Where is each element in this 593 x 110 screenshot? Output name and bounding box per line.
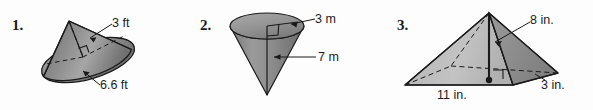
problem-3: 3. <box>385 0 593 110</box>
label-radius-3m: 3 m <box>315 12 336 26</box>
cone-inverted-diagram <box>190 0 385 110</box>
cone-tilted-diagram <box>0 0 197 110</box>
problem-1: 1. <box>0 0 197 110</box>
label-base-depth-3in: 3 in. <box>541 78 565 92</box>
label-height-8in: 8 in. <box>530 13 554 27</box>
label-radius-3ft: 3 ft <box>112 16 129 30</box>
altitude-foot-point <box>486 77 492 83</box>
leader-height <box>274 54 316 60</box>
label-base-width-11in: 11 in. <box>437 88 467 102</box>
problem-2: 2. <box>190 0 385 110</box>
pyramid-diagram <box>385 0 593 110</box>
label-slant-6-6ft: 6.6 ft <box>100 78 128 92</box>
label-height-7m: 7 m <box>318 50 339 64</box>
